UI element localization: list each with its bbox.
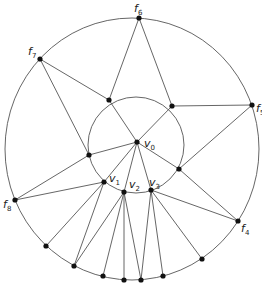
edge-a2-f5 — [172, 105, 252, 106]
label-v0: v0 — [144, 137, 155, 152]
edge-v2-b2 — [74, 192, 124, 266]
vertex-b1 — [43, 243, 48, 248]
vertex-b6 — [160, 273, 165, 278]
edge-f5-a4 — [179, 105, 252, 169]
edges-group — [15, 18, 252, 280]
edge-v3-f4 — [151, 190, 238, 221]
edge-a1-v0 — [109, 100, 137, 142]
label-f5: f5 — [256, 102, 262, 117]
vertex-a4 — [176, 166, 181, 171]
label-v3: v3 — [149, 176, 160, 191]
edge-a2-v0 — [137, 106, 172, 142]
edge-v1-b2 — [74, 182, 104, 266]
vertex-a2 — [169, 103, 174, 108]
vertex-f5 — [249, 102, 254, 107]
vertex-b7 — [199, 256, 204, 261]
vertex-a1 — [106, 97, 111, 102]
planar-graph-diagram: f6f7f5f8f4v0v1v2v3 — [0, 0, 262, 289]
vertex-b4 — [121, 277, 126, 282]
vertex-v2 — [121, 189, 126, 194]
vertex-v0 — [134, 139, 139, 144]
edge-a3-f8 — [15, 155, 89, 200]
edge-f6-a1 — [109, 18, 139, 100]
label-v2: v2 — [129, 178, 140, 193]
label-f6: f6 — [134, 2, 143, 17]
labels-group: f6f7f5f8f4v0v1v2v3 — [3, 2, 262, 237]
outer-circle — [5, 18, 259, 280]
edge-f6-a2 — [139, 18, 172, 106]
vertex-b5 — [138, 277, 143, 282]
label-f7: f7 — [28, 45, 36, 60]
vertex-b3 — [100, 273, 105, 278]
label-f8: f8 — [3, 198, 11, 213]
edge-v3-b5 — [141, 190, 151, 280]
vertex-f4 — [235, 218, 240, 223]
edge-v3-b7 — [151, 190, 202, 259]
vertex-f7 — [37, 56, 42, 61]
edge-a3-v0 — [89, 142, 137, 155]
label-f4: f4 — [241, 222, 250, 237]
vertex-v1 — [101, 179, 106, 184]
vertex-a3 — [86, 152, 91, 157]
edge-v2-b5 — [124, 192, 141, 280]
edge-v2-b3 — [103, 192, 124, 276]
vertex-b2 — [71, 263, 76, 268]
label-v1: v1 — [109, 172, 120, 187]
edge-v3-b6 — [151, 190, 163, 276]
vertex-f8 — [12, 197, 17, 202]
edge-a4-f4 — [179, 169, 238, 221]
